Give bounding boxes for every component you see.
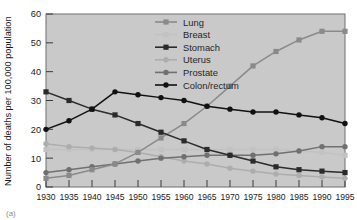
legend-label-uterus: Uterus [183, 54, 211, 65]
x-tick-label: 1955 [151, 192, 170, 202]
data-point-marker [158, 95, 163, 100]
x-tick-label: 1995 [335, 192, 354, 202]
data-point-marker [342, 29, 347, 34]
data-point-marker [135, 150, 140, 155]
x-tick-label: 1935 [59, 192, 78, 202]
x-tick-label: 1930 [36, 192, 55, 202]
legend-swatch-marker [163, 19, 168, 24]
y-tick-label: 50 [31, 38, 41, 48]
data-point-marker [43, 141, 48, 146]
data-point-marker [204, 161, 209, 166]
data-point-marker [158, 135, 163, 140]
data-point-marker [342, 121, 347, 126]
data-point-marker [89, 145, 94, 150]
data-point-marker [273, 109, 278, 114]
data-point-marker [89, 167, 94, 172]
legend-swatch-marker [163, 45, 168, 50]
data-point-marker [250, 158, 255, 163]
data-point-marker [112, 89, 117, 94]
data-point-marker [273, 151, 278, 156]
data-point-marker [43, 170, 48, 175]
data-point-marker [296, 148, 301, 153]
data-point-marker [204, 153, 209, 158]
data-point-marker [273, 164, 278, 169]
data-point-marker [319, 144, 324, 149]
data-point-marker [250, 147, 255, 152]
data-point-marker [342, 144, 347, 149]
data-point-marker [342, 153, 347, 158]
data-point-marker [181, 98, 186, 103]
data-point-marker [181, 121, 186, 126]
data-point-marker [296, 112, 301, 117]
data-point-marker [319, 29, 324, 34]
x-tick-label: 1965 [197, 192, 216, 202]
figure-caption: (a) [6, 209, 16, 218]
data-point-marker [112, 161, 117, 166]
data-point-marker [342, 176, 347, 181]
x-tick-label: 1940 [82, 192, 101, 202]
data-point-marker [319, 150, 324, 155]
data-point-marker [89, 106, 94, 111]
x-tick-label: 1970 [220, 192, 239, 202]
data-point-marker [319, 169, 324, 174]
data-point-marker [43, 89, 48, 94]
cancer-death-rate-line-chart: 0102030405060 19301935194019451950195519… [0, 0, 357, 220]
data-point-marker [43, 147, 48, 152]
legend-label-breast: Breast [183, 29, 210, 40]
data-point-marker [250, 109, 255, 114]
legend-label-stomach: Stomach [183, 42, 220, 53]
data-point-marker [227, 153, 232, 158]
data-point-marker [158, 130, 163, 135]
data-point-marker [227, 166, 232, 171]
data-point-marker [43, 176, 48, 181]
data-point-marker [135, 158, 140, 163]
x-tick-label: 1950 [128, 192, 147, 202]
data-point-marker [181, 154, 186, 159]
legend-swatch-marker [163, 57, 168, 62]
data-point-marker [181, 138, 186, 143]
legend-label-lung: Lung [183, 17, 204, 28]
data-point-marker [158, 147, 163, 152]
data-point-marker [296, 173, 301, 178]
y-tick-label: 0 [36, 182, 41, 192]
legend-label-prostate: Prostate [183, 67, 218, 78]
y-tick-label: 60 [31, 9, 41, 19]
data-point-marker [250, 168, 255, 173]
data-point-marker [250, 153, 255, 158]
data-point-marker [204, 104, 209, 109]
legend-swatch-marker [163, 32, 168, 37]
x-tick-label: 1960 [174, 192, 193, 202]
data-point-marker [181, 147, 186, 152]
legend-swatch-marker [163, 70, 168, 75]
y-tick-label: 30 [31, 96, 41, 106]
legend-swatch-marker [163, 82, 168, 87]
data-point-marker [273, 49, 278, 54]
data-point-marker [227, 147, 232, 152]
data-point-marker [66, 118, 71, 123]
data-point-marker [342, 170, 347, 175]
data-point-marker [66, 167, 71, 172]
y-axis-label: Number of deaths per 100,000 population [3, 16, 13, 186]
data-point-marker [296, 37, 301, 42]
x-tick-label: 1975 [243, 192, 262, 202]
x-tick-label: 1945 [105, 192, 124, 202]
figure-container: 0102030405060 19301935194019451950195519… [0, 0, 357, 220]
data-point-marker [227, 106, 232, 111]
x-tick-label: 1985 [289, 192, 308, 202]
data-point-marker [112, 112, 117, 117]
y-tick-label: 10 [31, 154, 41, 164]
data-point-marker [43, 127, 48, 132]
x-tick-label: 1980 [266, 192, 285, 202]
data-point-marker [135, 92, 140, 97]
data-point-marker [135, 121, 140, 126]
data-point-marker [273, 171, 278, 176]
data-point-marker [66, 144, 71, 149]
data-point-marker [204, 147, 209, 152]
legend-label-colon-rectum: Colon/rectum [183, 80, 239, 91]
data-point-marker [319, 115, 324, 120]
data-point-marker [66, 173, 71, 178]
data-point-marker [66, 98, 71, 103]
data-point-marker [112, 147, 117, 152]
y-tick-label: 40 [31, 67, 41, 77]
data-point-marker [296, 167, 301, 172]
